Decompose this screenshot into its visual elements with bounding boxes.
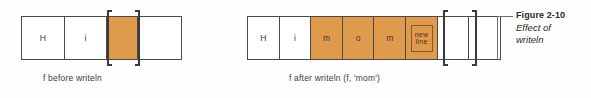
- caption-f-after-writeln: f after writeln (f, 'mom'): [289, 73, 380, 83]
- newline-label-line1: new: [415, 31, 429, 38]
- figure-number: Figure 2-10: [516, 10, 588, 20]
- label-rule-vertical: [497, 16, 498, 60]
- cell-label: m: [386, 33, 393, 43]
- cell-char-o-after: o: [342, 16, 375, 60]
- cell-row-after: H i m o m new line: [247, 16, 500, 60]
- diagram-f-before-writeln: H i: [21, 16, 180, 60]
- cell-char-i-before: i: [64, 16, 108, 60]
- figure-label: Figure 2-10 Effect of writeln: [516, 10, 588, 46]
- cell-label: o: [356, 33, 361, 43]
- cell-row-before: H i: [21, 16, 180, 60]
- figure-title-line-2: writeln: [516, 34, 588, 46]
- cell-empty-before: [137, 16, 182, 60]
- diagram-f-after-writeln: H i m o m new line: [247, 16, 500, 60]
- caption-f-before-writeln: f before writeln: [43, 73, 102, 83]
- bracket-tick-top-right: [135, 10, 140, 12]
- cell-char-i-after: i: [279, 16, 312, 60]
- bracket-tick-top-left: [107, 10, 112, 12]
- cell-label: H: [260, 33, 266, 43]
- figure-title: Effect of writeln: [516, 22, 588, 46]
- bracket-tick-top-right: [472, 10, 477, 12]
- bracket-tick-bottom-left: [443, 64, 448, 66]
- bracket-tick-bottom-left: [107, 64, 112, 66]
- label-rule-horizontal: [497, 16, 513, 17]
- figure-title-line-1: Effect of: [516, 22, 588, 34]
- cell-label: m: [323, 33, 330, 43]
- figure-2-10: H i f before writeln H: [0, 0, 591, 98]
- cell-current-position-after: [437, 16, 470, 60]
- bracket-tick-top-left: [443, 10, 448, 12]
- newline-marker-box: new line: [411, 25, 433, 52]
- cell-char-h-before: H: [21, 16, 65, 60]
- newline-label-line2: line: [415, 38, 427, 45]
- bracket-tick-bottom-right: [135, 64, 140, 66]
- cell-current-position-before: [106, 16, 138, 60]
- cell-label: H: [40, 33, 46, 43]
- cell-char-h-after: H: [247, 16, 280, 60]
- cell-char-m2-after: m: [373, 16, 406, 60]
- cell-newline-after: new line: [405, 16, 438, 60]
- cell-label: i: [294, 33, 296, 43]
- cell-char-m1-after: m: [310, 16, 343, 60]
- cell-label: i: [85, 33, 87, 43]
- bracket-tick-bottom-right: [472, 64, 477, 66]
